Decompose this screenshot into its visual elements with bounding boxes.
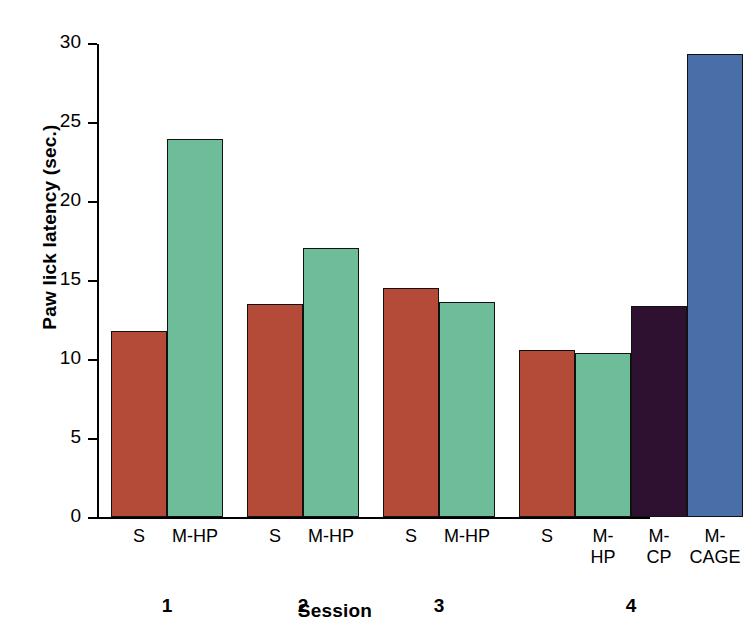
bar-session-1-M-HP: [167, 139, 223, 517]
y-tick-5: 5: [88, 438, 97, 440]
x-tick-label-session-2-M-HP: M-HP: [293, 526, 369, 547]
y-tick-label: 10: [41, 348, 81, 368]
y-tick-25: 25: [88, 122, 97, 124]
y-tick-15: 15: [88, 280, 97, 282]
y-tick-0: 0: [88, 517, 97, 519]
bar-session-4-M-CAGE: [687, 54, 743, 517]
y-tick-label: 15: [41, 269, 81, 289]
bar-session-4-M-HP: [575, 353, 631, 517]
y-tick-label: 30: [41, 32, 81, 52]
x-tick-label-session-4-M-CAGE: M- CAGE: [677, 526, 747, 568]
plot-area: 051015202530 SM-HPSM-HPSM-HPSM- HPM- CPM…: [97, 44, 650, 518]
bar-session-3-S: [383, 288, 439, 517]
y-tick-label: 20: [41, 190, 81, 210]
bar-session-1-S: [111, 331, 167, 517]
bar-session-2-S: [247, 304, 303, 517]
y-tick-30: 30: [88, 43, 97, 45]
x-tick-label-session-3-M-HP: M-HP: [429, 526, 505, 547]
y-tick-label: 25: [41, 111, 81, 131]
bar-session-3-M-HP: [439, 302, 495, 517]
y-tick-label: 0: [41, 506, 81, 526]
bar-session-4-S: [519, 350, 575, 517]
bar-session-2-M-HP: [303, 248, 359, 517]
y-axis-line: [97, 44, 99, 518]
y-tick-label: 5: [41, 427, 81, 447]
x-axis-line: [97, 517, 650, 519]
y-tick-20: 20: [88, 201, 97, 203]
x-axis-title: Session: [0, 600, 670, 622]
bar-session-4-M-CP: [631, 306, 687, 517]
y-tick-10: 10: [88, 359, 97, 361]
x-tick-label-session-1-M-HP: M-HP: [157, 526, 233, 547]
